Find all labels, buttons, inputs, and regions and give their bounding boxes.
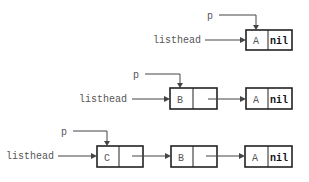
pointer-arrow [145, 74, 180, 84]
node-value: A [252, 153, 258, 164]
node-next-nil: nil [270, 95, 288, 106]
pointer-label-p: p [61, 127, 67, 138]
listhead-label: listhead [153, 35, 201, 46]
pointer-label-p: p [207, 11, 213, 22]
node-value: B [177, 95, 183, 106]
row-2: p listhead B A nil [79, 70, 292, 109]
row-3: p listhead C B A nil [6, 127, 292, 167]
row-1: p listhead A nil [153, 11, 292, 50]
node-value: A [253, 95, 259, 106]
arrowhead-icon [240, 96, 246, 102]
list-node-a: A nil [246, 88, 292, 109]
arrowhead-icon [91, 153, 97, 159]
node-next-nil: nil [270, 36, 288, 47]
arrowhead-icon [239, 153, 245, 159]
arrowhead-icon [165, 153, 171, 159]
list-node-a: A nil [246, 30, 292, 50]
linked-list-diagram: p listhead A nil p listhead B A [0, 0, 309, 182]
node-value: C [104, 153, 110, 164]
pointer-label-p: p [133, 70, 139, 81]
node-next-nil: nil [270, 153, 288, 164]
pointer-arrow [219, 15, 256, 26]
node-value: B [178, 153, 184, 164]
arrowhead-icon [240, 37, 246, 43]
listhead-label: listhead [79, 94, 127, 105]
list-node-a: A nil [245, 146, 292, 167]
arrowhead-icon [164, 96, 170, 102]
listhead-label: listhead [6, 151, 54, 162]
pointer-arrow [73, 131, 107, 142]
node-value: A [253, 36, 259, 47]
